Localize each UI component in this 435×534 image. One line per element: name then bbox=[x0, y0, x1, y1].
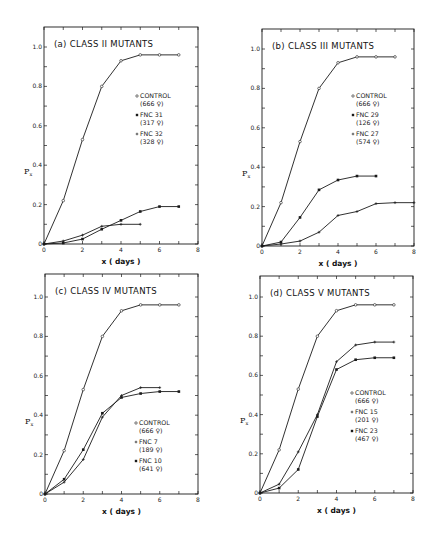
data-point-open bbox=[101, 335, 104, 338]
data-point-cross bbox=[158, 386, 161, 389]
legend-marker-open bbox=[135, 422, 137, 424]
x-tick-label: 2 bbox=[81, 496, 85, 503]
panel-title: (a) CLASS II MUTANTS bbox=[54, 39, 153, 49]
x-tick-label: 2 bbox=[298, 248, 302, 255]
legend-sample-size: (666 ♀) bbox=[140, 100, 164, 107]
y-tick-label: 0.8 bbox=[250, 84, 260, 91]
data-point-open bbox=[120, 59, 123, 62]
x-tick-label: 0 bbox=[258, 495, 262, 502]
y-tick-label: 0.2 bbox=[32, 201, 42, 208]
y-axis-label-subscript: x bbox=[30, 171, 33, 177]
data-point-cross bbox=[413, 201, 416, 204]
data-point-open bbox=[280, 201, 283, 204]
data-point-filled bbox=[44, 493, 47, 496]
y-tick-label: 0 bbox=[38, 240, 42, 247]
legend-label: FNC 23 bbox=[355, 427, 378, 434]
panel-title: (c) CLASS IV MUTANTS bbox=[55, 286, 157, 296]
data-point-open bbox=[393, 304, 396, 307]
y-tick-label: 0.2 bbox=[248, 450, 258, 457]
y-tick-label: 1.0 bbox=[32, 43, 42, 50]
data-point-filled bbox=[354, 358, 357, 361]
x-axis-label: x ( days ) bbox=[102, 507, 141, 516]
data-point-open bbox=[318, 87, 321, 90]
data-point-filled bbox=[158, 205, 161, 208]
data-point-cross bbox=[394, 201, 397, 204]
y-tick-label: 0 bbox=[39, 490, 43, 497]
data-point-filled bbox=[120, 219, 123, 222]
legend-sample-size: (467 ♀) bbox=[355, 435, 379, 442]
x-tick-label: 6 bbox=[374, 248, 378, 255]
legend-sample-size: (641 ♀) bbox=[139, 465, 163, 472]
y-tick-label: 0.2 bbox=[250, 203, 260, 210]
data-point-filled bbox=[81, 238, 84, 241]
x-tick-label: 4 bbox=[336, 248, 340, 255]
legend-label: FNC 15 bbox=[355, 408, 378, 415]
x-tick-label: 2 bbox=[296, 495, 300, 502]
legend-label: CONTROL bbox=[355, 389, 386, 396]
chart-legend: CONTROL(666 ♀)FNC 31(317 ♀)FNC 32(328 ♀) bbox=[136, 92, 172, 145]
legend-marker-open bbox=[351, 392, 353, 394]
data-point-cross bbox=[375, 202, 378, 205]
y-tick-label: 0.4 bbox=[33, 411, 43, 418]
data-point-open bbox=[120, 309, 123, 312]
chart-panel-c: 0246800.20.40.60.81.0x ( days )Px(c) CLA… bbox=[25, 274, 200, 516]
data-point-open bbox=[316, 335, 319, 338]
y-tick-label: 0.8 bbox=[248, 332, 258, 339]
legend-sample-size: (574 ♀) bbox=[356, 138, 380, 145]
y-tick-label: 0.8 bbox=[33, 332, 43, 339]
data-point-open bbox=[354, 304, 357, 307]
series-line bbox=[260, 358, 394, 493]
data-point-filled bbox=[120, 396, 123, 399]
legend-sample-size: (666 ♀) bbox=[355, 397, 379, 404]
legend-marker-open bbox=[136, 95, 138, 97]
data-point-filled bbox=[316, 415, 319, 418]
legend-marker-cross bbox=[135, 441, 138, 444]
data-point-open bbox=[337, 61, 340, 64]
legend-label: CONTROL bbox=[356, 92, 387, 99]
data-point-open bbox=[375, 56, 378, 59]
y-tick-label: 0.2 bbox=[33, 451, 43, 458]
data-point-cross bbox=[100, 225, 103, 228]
chart-legend: CONTROL(666 ♀)FNC 7(189 ♀)FNC 10(641 ♀) bbox=[135, 419, 171, 472]
data-point-open bbox=[139, 54, 142, 57]
data-point-open bbox=[177, 54, 180, 57]
data-point-open bbox=[356, 56, 359, 59]
data-point-filled bbox=[375, 175, 378, 178]
y-tick-label: 0.6 bbox=[33, 372, 43, 379]
data-point-open bbox=[81, 138, 84, 141]
data-point-filled bbox=[101, 412, 104, 415]
data-point-open bbox=[278, 449, 281, 452]
data-point-filled bbox=[373, 356, 376, 359]
data-point-cross bbox=[392, 341, 395, 344]
legend-marker-cross bbox=[352, 133, 355, 136]
legend-label: FNC 7 bbox=[139, 438, 158, 445]
plot-frame bbox=[260, 276, 413, 493]
chart-panel-d: 0246800.20.40.60.81.0x ( days )Px(d) CLA… bbox=[240, 276, 415, 515]
data-point-filled bbox=[337, 179, 340, 182]
y-tick-label: 1.0 bbox=[248, 293, 258, 300]
data-point-open bbox=[62, 199, 65, 202]
legend-sample-size: (201 ♀) bbox=[355, 416, 379, 423]
chart-legend: CONTROL(666 ♀)FNC 15(201 ♀)FNC 23(467 ♀) bbox=[351, 389, 387, 442]
data-point-filled bbox=[297, 468, 300, 471]
legend-sample-size: (328 ♀) bbox=[140, 138, 164, 145]
data-point-open bbox=[63, 449, 66, 452]
plot-frame bbox=[45, 274, 198, 494]
data-point-filled bbox=[158, 390, 161, 393]
panel-title: (d) CLASS V MUTANTS bbox=[270, 288, 370, 298]
legend-marker-filled bbox=[135, 460, 137, 462]
y-tick-label: 0.6 bbox=[250, 124, 260, 131]
series-line bbox=[262, 57, 395, 246]
data-point-open bbox=[158, 304, 161, 307]
y-tick-label: 0 bbox=[254, 489, 258, 496]
legend-label: FNC 31 bbox=[140, 111, 163, 118]
data-point-cross bbox=[299, 240, 302, 243]
chart-panel-a: 0246800.20.40.60.81.0x ( days )Px(a) CLA… bbox=[24, 27, 200, 266]
legend-marker-filled bbox=[136, 114, 138, 116]
x-tick-label: 8 bbox=[411, 495, 415, 502]
legend-label: FNC 10 bbox=[139, 457, 162, 464]
x-tick-label: 4 bbox=[120, 496, 124, 503]
data-point-filled bbox=[318, 189, 321, 192]
legend-marker-filled bbox=[352, 114, 354, 116]
x-tick-label: 8 bbox=[412, 248, 416, 255]
